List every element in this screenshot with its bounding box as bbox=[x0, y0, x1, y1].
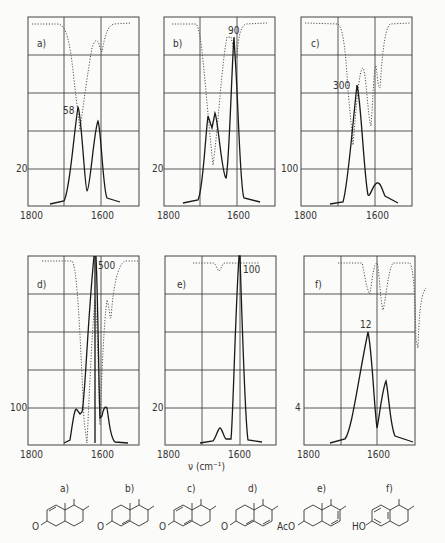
panel-c-label: c) bbox=[311, 38, 319, 49]
peak-label: 100 bbox=[243, 264, 260, 275]
raman-trace bbox=[64, 256, 128, 443]
y-tick-label: 4 bbox=[295, 402, 301, 413]
structure-b: b) O bbox=[97, 483, 154, 532]
svg-text:d): d) bbox=[248, 483, 257, 494]
y-tick-label: 20 bbox=[152, 402, 164, 413]
x-tick-1600: 1600 bbox=[227, 210, 250, 221]
ir-trace bbox=[42, 261, 138, 443]
figure-canvas: a) 58 20 1800 1600 b) 90 20 1800 1600 c)… bbox=[0, 0, 445, 543]
x-tick-1600: 1600 bbox=[228, 449, 251, 460]
svg-text:AcO: AcO bbox=[277, 521, 295, 532]
panel-b: b) 90 20 1800 1600 bbox=[152, 17, 275, 221]
raman-trace bbox=[50, 107, 120, 204]
x-tick-1800: 1800 bbox=[157, 210, 180, 221]
peak-label: 500 bbox=[98, 260, 115, 271]
peak-label: 90 bbox=[228, 25, 240, 36]
raman-trace bbox=[330, 85, 398, 204]
x-tick-1600: 1600 bbox=[366, 210, 389, 221]
svg-text:b): b) bbox=[125, 483, 134, 494]
svg-text:O: O bbox=[32, 521, 39, 532]
x-tick-1800: 1800 bbox=[20, 449, 43, 460]
panel-a: a) 58 20 1800 1600 bbox=[16, 17, 139, 221]
y-tick-label: 20 bbox=[152, 163, 164, 174]
svg-text:HO: HO bbox=[352, 521, 366, 532]
x-tick-1600: 1600 bbox=[91, 210, 114, 221]
structure-a: a) O bbox=[32, 483, 89, 532]
svg-text:O: O bbox=[221, 521, 228, 532]
x-axis-label: ν (cm⁻¹) bbox=[188, 461, 225, 472]
x-tick-1800: 1800 bbox=[297, 449, 320, 460]
panel-f-label: f) bbox=[315, 279, 322, 290]
y-tick-label: 100 bbox=[281, 163, 298, 174]
ir-trace bbox=[305, 23, 410, 145]
y-tick-label: 100 bbox=[10, 402, 27, 413]
raman-trace bbox=[330, 332, 413, 443]
ir-trace bbox=[32, 23, 131, 130]
panel-b-label: b) bbox=[173, 38, 182, 49]
structure-e: e) AcO bbox=[277, 483, 346, 532]
panel-e-label: e) bbox=[177, 279, 186, 290]
structure-c: c) O bbox=[159, 483, 216, 532]
peak-label: 58 bbox=[63, 105, 75, 116]
svg-text:e): e) bbox=[317, 483, 326, 494]
panel-a-label: a) bbox=[37, 38, 46, 49]
svg-text:f): f) bbox=[386, 483, 393, 494]
panel-e: e) 100 20 1800 1600 ν (cm⁻¹) bbox=[152, 256, 276, 472]
structure-f: f) HO bbox=[352, 483, 414, 532]
svg-text:O: O bbox=[159, 521, 166, 532]
peak-label: 300 bbox=[333, 80, 350, 91]
y-tick-label: 20 bbox=[16, 163, 28, 174]
panel-c: c) 300 100 1800 1600 bbox=[281, 17, 412, 221]
svg-text:c): c) bbox=[187, 483, 195, 494]
raman-trace bbox=[183, 37, 260, 203]
x-tick-1800: 1800 bbox=[294, 210, 317, 221]
panel-d-label: d) bbox=[37, 279, 46, 290]
svg-text:a): a) bbox=[60, 483, 69, 494]
x-tick-1600: 1600 bbox=[367, 449, 390, 460]
panel-d: d) 500 100 1800 1600 bbox=[10, 256, 139, 460]
structure-d: d) O bbox=[221, 483, 278, 532]
x-tick-1600: 1600 bbox=[91, 449, 114, 460]
x-tick-1800: 1800 bbox=[20, 210, 43, 221]
x-tick-1800: 1800 bbox=[157, 449, 180, 460]
ir-trace bbox=[338, 263, 426, 348]
svg-text:O: O bbox=[97, 521, 104, 532]
raman-trace bbox=[200, 256, 262, 443]
peak-label: 12 bbox=[360, 319, 371, 330]
panel-f: f) 12 4 1800 1600 bbox=[295, 256, 426, 460]
